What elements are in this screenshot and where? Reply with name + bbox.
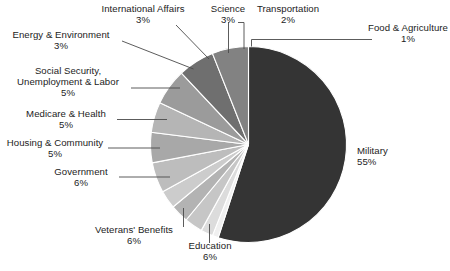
label-veterans-benefits: Veterans' Benefits 6% — [89, 224, 179, 246]
label-energy-environment: Energy & Environment 3% — [2, 29, 120, 51]
label-military: Military 55% — [357, 145, 427, 167]
label-transportation: Transportation 2% — [241, 3, 335, 25]
label-education-value: 6% — [176, 251, 244, 262]
label-education: Education 6% — [176, 240, 244, 262]
label-energy-environment-value: 3% — [2, 40, 120, 51]
label-housing-community-value: 5% — [3, 148, 107, 159]
leader-line-food-agriculture — [252, 40, 373, 47]
label-housing-community: Housing & Community 5% — [3, 137, 107, 159]
label-food-agriculture-value: 1% — [366, 33, 450, 44]
label-international-affairs-value: 3% — [84, 14, 202, 25]
label-government: Government 6% — [45, 166, 117, 188]
label-education-name: Education — [176, 240, 244, 251]
label-veterans-benefits-value: 6% — [89, 235, 179, 246]
leader-line-international-affairs — [176, 25, 209, 59]
label-government-value: 6% — [45, 177, 117, 188]
label-food-agriculture: Food & Agriculture 1% — [366, 22, 450, 44]
label-military-name: Military — [357, 145, 427, 156]
label-medicare-health-value: 5% — [16, 119, 116, 130]
label-military-value: 55% — [357, 156, 427, 167]
label-housing-community-name: Housing & Community — [3, 137, 107, 148]
label-social-security-value: 5% — [6, 87, 130, 98]
label-social-security-name-line1: Social Security, — [6, 65, 130, 76]
leader-line-transportation — [238, 23, 244, 50]
label-food-agriculture-name: Food & Agriculture — [366, 22, 450, 33]
label-international-affairs: International Affairs 3% — [84, 3, 202, 25]
label-medicare-health: Medicare & Health 5% — [16, 108, 116, 130]
label-medicare-health-name: Medicare & Health — [16, 108, 116, 119]
label-energy-environment-name: Energy & Environment — [2, 29, 120, 40]
label-transportation-name: Transportation — [241, 3, 335, 14]
label-social-security: Social Security, Unemployment & Labor 5% — [6, 65, 130, 99]
label-veterans-benefits-name: Veterans' Benefits — [89, 224, 179, 235]
pie-slice-group — [151, 47, 347, 243]
label-government-name: Government — [45, 166, 117, 177]
leader-line-energy-environment — [122, 41, 194, 69]
label-social-security-name-line2: Unemployment & Labor — [6, 76, 130, 87]
label-transportation-value: 2% — [241, 14, 335, 25]
pie-chart-figure: International Affairs 3% Science 3% Tran… — [0, 0, 450, 271]
label-international-affairs-name: International Affairs — [84, 3, 202, 14]
